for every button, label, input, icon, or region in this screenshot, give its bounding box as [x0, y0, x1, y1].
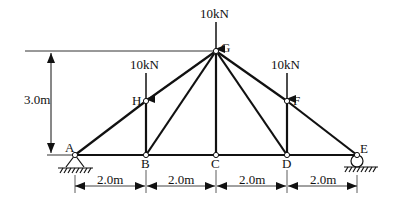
span-label-1: 2.0m [97, 172, 123, 187]
node-label-D: D [282, 156, 291, 171]
span-label-3: 2.0m [239, 172, 265, 187]
joint-H [143, 98, 148, 103]
height-dimension-label: 3.0m [24, 92, 50, 107]
load-label-H: 10kN [130, 57, 160, 72]
joint-G [213, 48, 218, 53]
node-label-E: E [360, 141, 368, 156]
truss-members [75, 51, 357, 155]
joint-E [354, 152, 359, 157]
member-FE [287, 101, 357, 155]
node-label-B: B [141, 156, 150, 171]
span-label-4: 2.0m [310, 172, 336, 187]
node-label-G: G [221, 40, 230, 55]
load-label-F: 10kN [271, 57, 301, 72]
span-label-2: 2.0m [168, 172, 194, 187]
joint-F [284, 98, 289, 103]
member-AH [75, 101, 146, 155]
truss-diagram: A B C D E F G H 10kN 10kN 10kN 3.0m 2.0m… [0, 0, 399, 207]
node-label-A: A [65, 140, 75, 155]
node-label-H: H [132, 93, 141, 108]
load-label-G: 10kN [200, 6, 230, 21]
node-label-C: C [211, 156, 220, 171]
node-label-F: F [293, 93, 300, 108]
roller-support-E [344, 155, 378, 172]
